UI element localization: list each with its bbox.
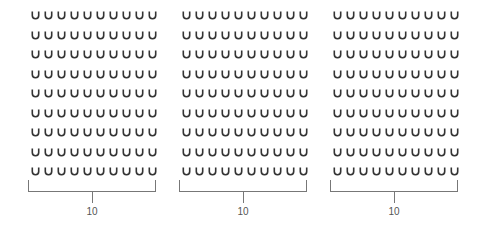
u-shape-icon	[398, 70, 407, 79]
u-shape-icon	[398, 109, 407, 118]
u-shape-icon	[333, 31, 342, 40]
u-shape-icon	[424, 148, 433, 157]
u-shape-icon	[424, 50, 433, 59]
u-shape-icon	[424, 31, 433, 40]
bracket-label: 10	[379, 206, 409, 217]
u-shape-icon	[372, 167, 381, 176]
u-shape-icon	[398, 11, 407, 20]
u-shape-icon	[411, 148, 420, 157]
u-shape-icon	[411, 70, 420, 79]
u-shape-icon	[333, 89, 342, 98]
u-shape-icon	[411, 50, 420, 59]
u-shape-icon	[372, 50, 381, 59]
u-shape-icon	[359, 128, 368, 137]
u-shape-icon	[359, 11, 368, 20]
u-shape-icon	[398, 31, 407, 40]
u-shape-row	[333, 148, 463, 168]
u-shape-icon	[385, 31, 394, 40]
u-shape-icon	[437, 50, 446, 59]
u-shape-icon	[372, 128, 381, 137]
u-shape-icon	[450, 70, 459, 79]
bracket-stem	[394, 192, 395, 203]
u-shape-icon	[411, 128, 420, 137]
u-shape-icon	[450, 89, 459, 98]
u-shape-icon	[450, 148, 459, 157]
u-shape-icon	[346, 31, 355, 40]
u-shape-icon	[437, 11, 446, 20]
u-shape-row	[333, 11, 463, 31]
u-shape-icon	[346, 70, 355, 79]
u-shape-row	[333, 89, 463, 109]
u-shape-icon	[450, 167, 459, 176]
u-shape-icon	[411, 89, 420, 98]
u-shape-icon	[333, 148, 342, 157]
u-shape-icon	[346, 148, 355, 157]
u-shape-icon	[437, 148, 446, 157]
u-shape-icon	[424, 89, 433, 98]
u-shape-icon	[450, 31, 459, 40]
u-shape-icon	[450, 109, 459, 118]
u-shape-icon	[372, 89, 381, 98]
group-bracket	[330, 180, 458, 192]
u-shape-icon	[411, 167, 420, 176]
u-shape-icon	[398, 89, 407, 98]
u-shape-row	[333, 31, 463, 51]
u-shape-icon	[333, 128, 342, 137]
u-shape-row	[333, 50, 463, 70]
u-shape-icon	[346, 11, 355, 20]
u-shape-icon	[385, 89, 394, 98]
u-shape-icon	[398, 148, 407, 157]
u-shape-icon	[346, 109, 355, 118]
u-shape-row	[333, 70, 463, 90]
u-shape-icon	[333, 109, 342, 118]
u-shape-icon	[372, 31, 381, 40]
u-shape-icon	[424, 11, 433, 20]
u-shape-icon	[346, 167, 355, 176]
u-shape-icon	[372, 70, 381, 79]
u-shape-group: 10	[0, 0, 482, 229]
u-shape-icon	[385, 70, 394, 79]
u-shape-icon	[385, 50, 394, 59]
u-shape-icon	[385, 148, 394, 157]
u-shape-icon	[385, 11, 394, 20]
u-shape-icon	[398, 167, 407, 176]
u-shape-icon	[359, 50, 368, 59]
u-shape-icon	[437, 109, 446, 118]
u-shape-icon	[346, 50, 355, 59]
u-shape-icon	[424, 70, 433, 79]
u-shape-icon	[346, 89, 355, 98]
u-shape-icon	[411, 11, 420, 20]
u-shape-icon	[359, 31, 368, 40]
u-shape-icon	[411, 109, 420, 118]
u-shape-icon	[359, 148, 368, 157]
u-shape-icon	[437, 89, 446, 98]
u-shape-icon	[372, 148, 381, 157]
u-shape-icon	[359, 167, 368, 176]
u-shape-icon	[398, 50, 407, 59]
u-shape-icon	[346, 128, 355, 137]
u-shape-icon	[359, 70, 368, 79]
u-shape-icon	[398, 128, 407, 137]
u-shape-icon	[424, 128, 433, 137]
u-shape-icon	[450, 128, 459, 137]
u-shape-icon	[385, 128, 394, 137]
u-shape-icon	[450, 50, 459, 59]
u-shape-icon	[333, 50, 342, 59]
u-shape-icon	[333, 11, 342, 20]
u-shape-icon	[424, 109, 433, 118]
u-shape-icon	[333, 167, 342, 176]
u-shape-icon	[450, 11, 459, 20]
u-shape-icon	[437, 167, 446, 176]
u-shape-icon	[437, 70, 446, 79]
u-shape-icon	[411, 31, 420, 40]
u-shape-row	[333, 109, 463, 129]
u-shape-icon	[333, 70, 342, 79]
u-shape-icon	[385, 167, 394, 176]
u-shape-icon	[359, 109, 368, 118]
u-shape-grid	[333, 11, 463, 187]
u-shape-icon	[385, 109, 394, 118]
u-shape-icon	[437, 128, 446, 137]
u-shape-icon	[372, 109, 381, 118]
u-shape-row	[333, 128, 463, 148]
u-shape-icon	[359, 89, 368, 98]
